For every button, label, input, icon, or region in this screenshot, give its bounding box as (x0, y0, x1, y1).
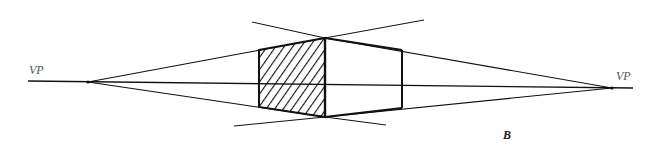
bottom-extension-left (234, 117, 325, 126)
top-extension-right (325, 20, 424, 38)
hatched-face (250, 30, 330, 125)
top-extension-left (252, 22, 325, 38)
left-vanishing-point (86, 80, 89, 83)
right-vp-label: VP (616, 69, 631, 83)
left-vp-label: VP (29, 63, 44, 77)
right-vanishing-point (610, 86, 613, 89)
panel-label: B (502, 128, 511, 142)
perspective-diagram: VP VP B (0, 0, 654, 153)
bottom-extension-right (325, 117, 386, 125)
